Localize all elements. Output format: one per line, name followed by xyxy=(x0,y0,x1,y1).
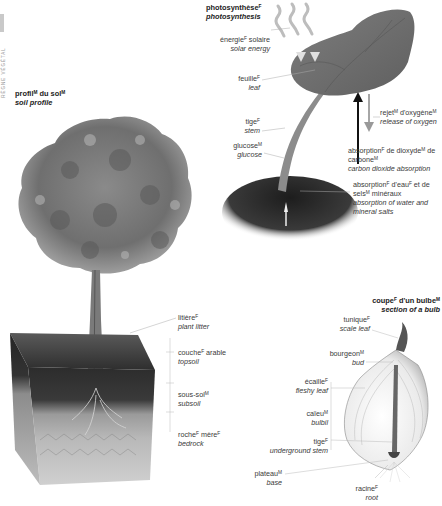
label-stem: tigeF stem xyxy=(222,117,260,135)
label-co2-absorption: absorptionF de dioxydeM de carboneM carb… xyxy=(348,146,442,173)
label-topsoil: coucheF arable topsoil xyxy=(178,348,226,366)
label-underground-stem: tigeF underground stem xyxy=(262,437,328,455)
label-solar-energy: énergieF solaire solar energy xyxy=(212,35,270,53)
label-scale-leaf: tuniqueF scale leaf xyxy=(322,315,370,333)
label-subsoil: sous-solM subsoil xyxy=(178,390,209,408)
bulb-title: coupeF d'un bulbeM section of a bulb xyxy=(350,296,440,314)
label-water-absorption: absorptionF d'eauF et de selsM minéraux … xyxy=(353,180,437,216)
label-bulbil: caïeuM bulbil xyxy=(280,409,328,427)
label-fleshy-leaf: écailleF fleshy leaf xyxy=(280,377,328,395)
label-release-oxygen: rejetM d'oxygèneM release of oxygen xyxy=(380,108,442,126)
tree-illustration xyxy=(0,0,442,506)
label-plant-litter: litièreF plant litter xyxy=(178,313,209,331)
label-bud: bourgeonM bud xyxy=(316,349,364,367)
label-base: plateauM base xyxy=(242,469,282,487)
label-leaf: feuilleF leaf xyxy=(222,74,260,92)
photosynthesis-title: photosynthèseF photosynthesis xyxy=(206,3,262,21)
label-root: racineF root xyxy=(340,484,378,502)
label-glucose: glucoseM glucose xyxy=(212,141,262,159)
label-bedrock: rocheF mèreF bedrock xyxy=(178,430,220,448)
